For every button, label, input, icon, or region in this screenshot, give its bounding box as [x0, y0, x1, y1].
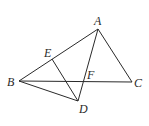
segment-ed	[52, 59, 78, 101]
label-b: B	[7, 75, 15, 89]
segment-bc	[19, 81, 132, 82]
label-c: C	[134, 76, 143, 90]
label-d: D	[78, 102, 88, 116]
label-a: A	[93, 14, 102, 28]
segment-bd	[19, 81, 78, 101]
geometry-diagram: A B C D E F	[0, 0, 149, 126]
label-f: F	[86, 68, 95, 82]
segment-ac	[98, 29, 132, 82]
label-e: E	[43, 46, 52, 60]
